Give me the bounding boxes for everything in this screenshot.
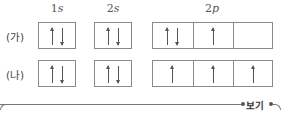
spin-down-arrow-icon [118, 28, 119, 45]
header-2p-subshell: p [212, 2, 219, 15]
orbital-cell-2p-1 [153, 61, 193, 86]
spin-up-arrow-icon [253, 66, 254, 83]
header-2s-number: 2 [107, 2, 114, 15]
bogi-badge: 보기 [246, 98, 264, 112]
spin-up-arrow-icon [172, 66, 173, 83]
header-2p-number: 2 [205, 2, 212, 15]
spin-up-arrow-icon [108, 66, 109, 83]
orbital-box-1s-ga [38, 22, 76, 49]
spin-up-arrow-icon [52, 28, 53, 45]
spin-up-arrow-icon [108, 28, 109, 45]
orbital-box-1s-na [38, 60, 76, 87]
header-1s-subshell: s [58, 2, 64, 15]
divider-line [0, 104, 244, 105]
orbital-cell-2p-3 [233, 61, 273, 86]
orbital-cell-2p-2 [193, 23, 233, 48]
orbital-box-2s-ga [94, 22, 132, 49]
header-2s-subshell: s [114, 2, 120, 15]
orbital-cell-2p-2 [193, 61, 233, 86]
row-label-ga: (가) [6, 29, 24, 44]
spin-down-arrow-icon [177, 28, 178, 45]
spin-down-arrow-icon [62, 28, 63, 45]
spin-down-arrow-icon [62, 66, 63, 83]
header-2p: 2p [152, 2, 272, 15]
header-2s: 2s [94, 2, 132, 15]
orbital-group-2p-na [152, 60, 273, 87]
spin-up-arrow-icon [167, 28, 168, 45]
orbital-cell-2p-1 [153, 23, 193, 48]
row-label-na: (나) [6, 67, 24, 82]
orbital-cell-2p-3 [233, 23, 273, 48]
spin-up-arrow-icon [213, 66, 214, 83]
divider-end-curve [273, 104, 281, 110]
orbital-group-2p-ga [152, 22, 273, 49]
orbital-box-2s-na [94, 60, 132, 87]
header-1s: 1s [38, 2, 76, 15]
header-1s-number: 1 [51, 2, 58, 15]
spin-down-arrow-icon [118, 66, 119, 83]
spin-up-arrow-icon [52, 66, 53, 83]
bullet-dot-icon [241, 102, 245, 106]
spin-up-arrow-icon [213, 28, 214, 45]
